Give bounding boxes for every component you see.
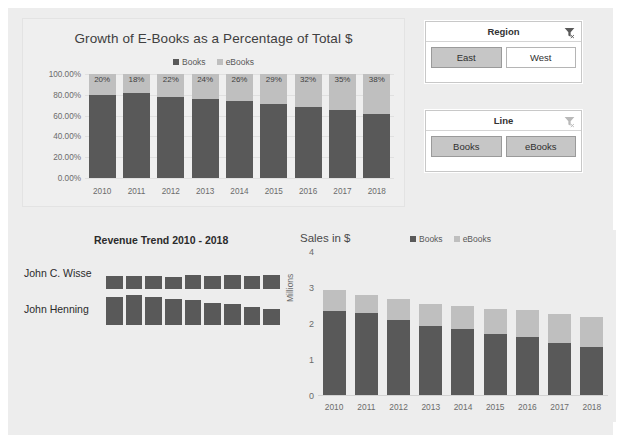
pct-chart-x-tick: 2015	[260, 187, 287, 196]
pct-chart-segment-books	[295, 107, 322, 178]
pct-chart-segment-ebooks: 32%	[295, 74, 322, 107]
trend-row-label: John C. Wisse	[22, 267, 106, 279]
sales-chart-segment-books	[516, 337, 539, 396]
trend-bar	[204, 276, 221, 289]
slicer-item-books[interactable]: Books	[431, 136, 502, 157]
sales-chart-y-tick: 0	[309, 391, 314, 401]
pct-chart-segment-ebooks: 20%	[89, 74, 116, 95]
trend-bar	[165, 277, 182, 289]
gridline	[85, 178, 394, 179]
sales-chart-y-tick: 3	[309, 283, 314, 293]
trend-bar	[126, 276, 143, 289]
sales-chart-x-tick: 2010	[323, 402, 346, 412]
pct-chart-segment-books	[226, 101, 253, 178]
pct-chart-segment-ebooks: 29%	[260, 74, 287, 104]
trend-bar	[263, 309, 280, 325]
pct-chart-data-label: 35%	[329, 75, 356, 84]
sales-chart-baseline	[318, 395, 608, 396]
clear-filter-icon[interactable]	[563, 25, 576, 38]
sales-chart-segment-ebooks	[355, 295, 378, 313]
slicer-region[interactable]: Region EastWest	[425, 21, 582, 83]
pct-chart-x-tick: 2010	[89, 187, 116, 196]
sales-chart-column	[451, 306, 474, 396]
sales-chart-column	[580, 317, 603, 396]
legend-item-ebooks: eBooks	[217, 57, 254, 67]
sales-chart-x-tick: 2012	[387, 402, 410, 412]
pct-chart-y-tick: 80.00%	[53, 90, 81, 99]
pct-chart-data-label: 18%	[123, 75, 150, 84]
slicer-item-ebooks[interactable]: eBooks	[506, 136, 577, 157]
slicer-item-east[interactable]: East	[431, 47, 502, 68]
trend-bar	[165, 299, 182, 325]
pct-chart-x-tick: 2012	[157, 187, 184, 196]
trend-bar	[204, 303, 221, 326]
legend-item-ebooks: eBooks	[454, 234, 491, 244]
pct-chart-segment-books	[260, 104, 287, 178]
sales-chart-segment-books	[323, 311, 346, 396]
legend-label-books: Books	[419, 234, 443, 244]
clear-filter-icon[interactable]	[563, 114, 576, 127]
trend-bar	[185, 300, 202, 325]
pct-chart-column: 18%	[123, 74, 150, 178]
slicer-region-items: EastWest	[426, 42, 581, 73]
sales-chart-bars	[318, 252, 608, 396]
books-swatch-icon	[173, 59, 179, 65]
sales-chart-segment-ebooks	[419, 304, 442, 326]
sales-chart-x-tick: 2011	[355, 402, 378, 412]
pct-chart-x-tick: 2013	[192, 187, 219, 196]
sales-chart-x-tick: 2018	[580, 402, 603, 412]
sales-chart-x-tick: 2017	[548, 402, 571, 412]
sales-chart-plot-area: 43210	[318, 252, 608, 396]
pct-chart-column: 20%	[89, 74, 116, 178]
trend-bar	[224, 304, 241, 325]
pct-chart-segment-books	[89, 95, 116, 178]
slicer-region-title: Region	[487, 26, 519, 37]
pct-chart-data-label: 38%	[363, 75, 390, 84]
pct-chart-bars: 20%18%22%24%26%29%32%35%38%	[85, 74, 394, 178]
pct-chart-x-tick: 2014	[226, 187, 253, 196]
sales-chart-y-tick: 2	[309, 319, 314, 329]
pct-chart-segment-ebooks: 26%	[226, 74, 253, 101]
trend-bar	[145, 276, 162, 289]
trend-row-bars	[106, 291, 280, 327]
dashboard-page: Growth of E-Books as a Percentage of Tot…	[0, 0, 621, 443]
sales-chart-x-tick: 2015	[484, 402, 507, 412]
pct-chart-column: 22%	[157, 74, 184, 178]
slicer-item-west[interactable]: West	[506, 47, 577, 68]
pct-chart-segment-ebooks: 22%	[157, 74, 184, 97]
pct-chart-segment-books	[157, 97, 184, 178]
sales-chart-axis-title: Millions	[285, 274, 295, 302]
trend-bar	[106, 297, 123, 325]
sales-chart-segment-ebooks	[323, 290, 346, 311]
pct-chart-x-tick: 2011	[123, 187, 150, 196]
legend-item-books: Books	[410, 234, 443, 244]
trend-bar	[106, 276, 123, 289]
trend-bar	[185, 275, 202, 289]
sales-chart-segment-books	[484, 334, 507, 396]
pct-chart-data-label: 26%	[226, 75, 253, 84]
pct-chart-x-axis: 201020112012201320142015201620172018	[85, 184, 394, 198]
legend-label-ebooks: eBooks	[463, 234, 491, 244]
trend-row-bars	[106, 255, 280, 291]
legend-label-ebooks: eBooks	[226, 57, 254, 67]
pct-chart-data-label: 29%	[260, 75, 287, 84]
pct-chart-column: 24%	[192, 74, 219, 178]
trend-row-label: John Henning	[22, 303, 106, 315]
pct-chart-data-label: 32%	[295, 75, 322, 84]
pct-chart-segment-ebooks: 35%	[329, 74, 356, 110]
sales-chart-segment-ebooks	[451, 306, 474, 329]
sales-chart-segment-books	[387, 320, 410, 396]
pct-chart-plot-area: 100.00%80.00%60.00%40.00%20.00%0.00% 20%…	[85, 74, 394, 178]
sales-chart-column	[516, 310, 539, 396]
legend-label-books: Books	[182, 57, 206, 67]
trend-bar	[244, 276, 261, 289]
slicer-line-title: Line	[494, 115, 514, 126]
slicer-line-header: Line	[426, 111, 581, 131]
pct-chart-segment-books	[123, 93, 150, 178]
sales-chart-segment-books	[548, 343, 571, 396]
pct-chart-segment-ebooks: 38%	[363, 74, 390, 114]
sales-chart-y-tick: 1	[309, 355, 314, 365]
revenue-trend-chart: Revenue Trend 2010 - 2018 John C. Wisse …	[22, 230, 280, 330]
slicer-line[interactable]: Line BookseBooks	[425, 110, 582, 172]
pct-chart-y-tick: 20.00%	[53, 153, 81, 162]
